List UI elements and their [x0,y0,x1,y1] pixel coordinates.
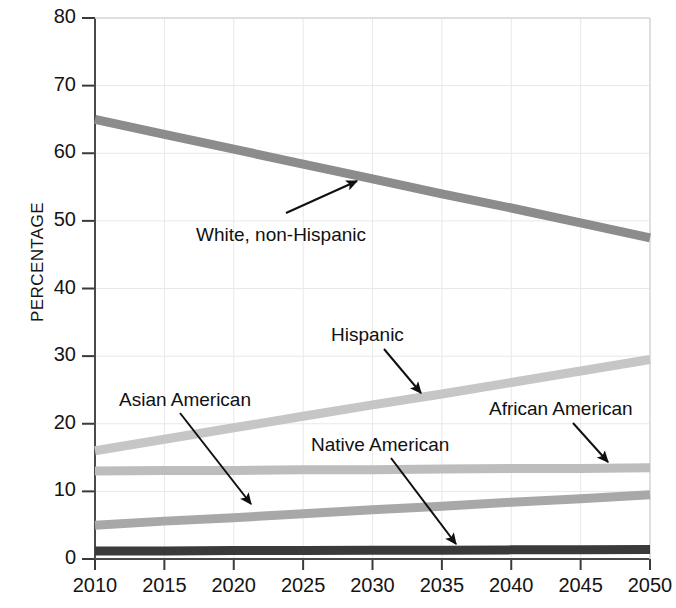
series-label-white-non-hispanic: White, non-Hispanic [196,224,366,246]
annotation-arrow [573,423,608,462]
y-axis-title: PERCENTAGE [28,172,48,352]
series-label-african-american: African American [489,398,633,420]
x-tick-label: 2025 [268,574,338,597]
y-tick-label: 80 [30,5,76,28]
y-tick-label: 0 [30,546,76,569]
series-label-hispanic: Hispanic [331,324,404,346]
y-tick-label: 60 [30,140,76,163]
x-tick-label: 2045 [546,574,616,597]
series-label-native-american: Native American [311,434,449,456]
x-tick-label: 2010 [60,574,130,597]
x-tick-label: 2030 [338,574,408,597]
axis-ticks [82,18,650,570]
series-line-native-american [95,550,650,551]
y-tick-label: 70 [30,73,76,96]
x-tick-label: 2035 [407,574,477,597]
gridlines [95,18,650,559]
y-tick-label: 20 [30,411,76,434]
annotation-arrow [384,349,421,393]
y-tick-label: 50 [30,208,76,231]
series-line-african-american [95,468,650,471]
y-tick-label: 40 [30,276,76,299]
series-label-asian-american: Asian American [119,389,251,411]
y-tick-label: 10 [30,478,76,501]
x-tick-label: 2050 [615,574,676,597]
annotation-arrow [286,181,357,213]
x-tick-label: 2015 [129,574,199,597]
x-tick-label: 2020 [199,574,269,597]
x-tick-label: 2040 [476,574,546,597]
y-tick-label: 30 [30,343,76,366]
